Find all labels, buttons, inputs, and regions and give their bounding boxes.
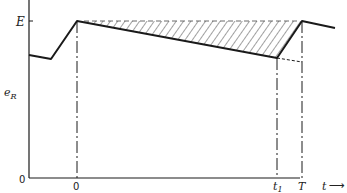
label-t-axis: t bbox=[322, 180, 327, 193]
label-t1: t1 bbox=[273, 180, 283, 193]
label-T: T bbox=[298, 180, 307, 193]
waveform-diagram: E eR 0 0 t1 T t ⟶ bbox=[0, 0, 347, 193]
label-eR: eR bbox=[4, 86, 17, 101]
label-y-origin: 0 bbox=[19, 174, 25, 185]
label-E: E bbox=[15, 15, 25, 29]
decay-extension bbox=[277, 58, 302, 62]
arrow-right-icon: ⟶ bbox=[329, 179, 345, 192]
label-x-zero: 0 bbox=[73, 181, 79, 192]
